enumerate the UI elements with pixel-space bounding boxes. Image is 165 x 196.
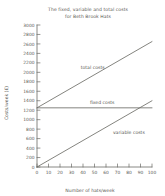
- series-label-total-costs: total costs: [81, 65, 105, 70]
- x-tick-label: 0: [36, 170, 39, 175]
- x-tick-label: 50: [92, 170, 98, 175]
- x-tick-label: 80: [126, 170, 132, 175]
- y-tick-label: 2000: [23, 70, 34, 75]
- y-tick-label: 1000: [23, 117, 34, 122]
- series-annotations: total costsfixed costsvariable costs: [81, 65, 146, 135]
- chart-title: The fixed, variable and total costs for …: [47, 7, 128, 19]
- x-tick-label: 20: [57, 170, 63, 175]
- y-tick-label: 1400: [23, 98, 34, 103]
- x-tick-label: 90: [138, 170, 144, 175]
- y-tick-label: 400: [26, 146, 35, 151]
- x-tick-label: 60: [103, 170, 109, 175]
- x-tick-label: 100: [148, 170, 157, 175]
- y-tick-label: 1800: [23, 79, 34, 84]
- y-tick-label: 200: [26, 155, 35, 160]
- y-tick-label: 800: [26, 127, 35, 132]
- x-tick-label: 30: [69, 170, 75, 175]
- y-tick-label: 2600: [23, 42, 34, 47]
- x-tick-label: 10: [46, 170, 52, 175]
- y-tick-label: 0: [32, 165, 35, 170]
- y-tick-label: 2800: [23, 32, 34, 37]
- x-axis-title: Number of hats/week: [65, 188, 115, 193]
- x-tick-label: 40: [80, 170, 86, 175]
- y-tick-label: 1200: [23, 108, 34, 113]
- y-tick-label: 600: [26, 136, 35, 141]
- y-axis-title: Costs/week (£): [4, 86, 9, 120]
- y-tick-label: 2400: [23, 51, 34, 56]
- y-tick-label: 1600: [23, 89, 34, 94]
- chart-title-line-1: The fixed, variable and total costs: [47, 7, 128, 12]
- chart-title-line-2: for Beth Brook Hats: [65, 14, 112, 19]
- x-axis-ticks: 0102030405060708090100: [36, 164, 157, 175]
- y-tick-label: 2200: [23, 60, 34, 65]
- chart-container: The fixed, variable and total costs for …: [0, 0, 165, 196]
- y-tick-label: 3000: [23, 23, 34, 28]
- cost-line-chart: The fixed, variable and total costs for …: [0, 0, 165, 196]
- y-axis-ticks: 0200400600800100012001400160018002000220…: [23, 23, 40, 170]
- series-label-variable-costs: variable costs: [113, 130, 146, 135]
- series-line-total-costs: [37, 42, 152, 108]
- x-tick-label: 70: [115, 170, 121, 175]
- series-label-fixed-costs: fixed costs: [90, 100, 115, 105]
